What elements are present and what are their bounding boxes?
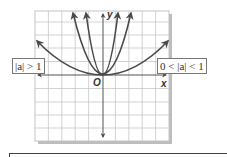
bottom-rule — [9, 153, 227, 157]
x-axis-label: x — [161, 78, 167, 89]
parabola-graph — [0, 0, 227, 157]
y-axis-label: y — [107, 9, 113, 20]
grid-background — [35, 11, 169, 141]
label-a-greater-than-1: |a| > 1 — [12, 58, 45, 74]
origin-label: O — [93, 77, 101, 88]
label-a-between-0-and-1: 0 < |a| < 1 — [157, 58, 207, 74]
